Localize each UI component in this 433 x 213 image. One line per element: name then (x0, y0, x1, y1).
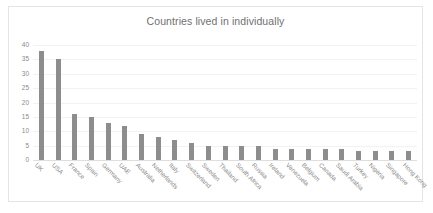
bar (389, 151, 394, 160)
bar (323, 149, 328, 161)
y-axis-tick-label: 30 (22, 71, 29, 78)
bar (189, 143, 194, 160)
bar (206, 146, 211, 160)
chart-container: Countries lived in individually 05101520… (8, 6, 423, 202)
y-axis-tick-label: 0 (25, 157, 29, 164)
x-axis-tick-label: USA (51, 162, 65, 176)
x-axis-tick-label: UK (34, 162, 45, 173)
chart-title: Countries lived in individually (9, 15, 422, 27)
y-axis-tick-label: 15 (22, 114, 29, 121)
bar (223, 146, 228, 160)
x-axis-tick-label: UAE (117, 162, 131, 176)
axis-baseline (33, 160, 417, 161)
bar-series (33, 45, 417, 160)
bar (156, 137, 161, 160)
bar (172, 140, 177, 160)
bar (339, 149, 344, 161)
bar (106, 123, 111, 160)
bar (56, 59, 61, 160)
y-axis-tick-label: 40 (22, 42, 29, 49)
bar (72, 114, 77, 160)
bar (406, 151, 411, 160)
x-axis-tick-label: France (67, 162, 85, 180)
y-axis-tick-label: 20 (22, 99, 29, 106)
x-axis-tick-label: Italy (167, 162, 180, 175)
y-axis-tick-label: 25 (22, 85, 29, 92)
bar (306, 149, 311, 161)
bar (289, 149, 294, 161)
x-axis-tick-label: Ireland (268, 162, 286, 180)
bar (256, 146, 261, 160)
x-axis-tick-label: Nigeria (368, 162, 387, 181)
bar (89, 117, 94, 160)
bar (122, 126, 127, 161)
bar (39, 51, 44, 160)
bar (373, 151, 378, 160)
y-axis-tick-label: 5 (25, 142, 29, 149)
y-axis-tick-label: 35 (22, 56, 29, 63)
x-axis: UKUSAFranceSpainGermanyUAEAustraliaNethe… (33, 162, 417, 212)
y-axis: 0510152025303540 (9, 45, 29, 160)
bar (239, 146, 244, 160)
y-axis-tick-label: 10 (22, 128, 29, 135)
bar (273, 149, 278, 161)
bar (139, 134, 144, 160)
plot-area (33, 45, 417, 160)
bar (356, 151, 361, 160)
